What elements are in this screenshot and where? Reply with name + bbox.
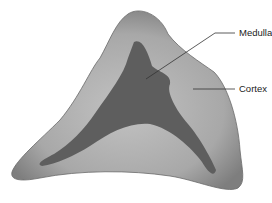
diagram-canvas [0,0,272,203]
medulla-label: Medulla [239,27,272,38]
cortex-label: Cortex [239,83,267,94]
